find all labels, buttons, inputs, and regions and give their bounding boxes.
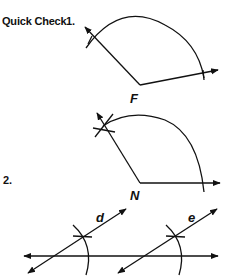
- vertex-label-f: F: [130, 91, 139, 106]
- line-label-d: d: [96, 210, 105, 225]
- angle-n-figure: [93, 113, 220, 192]
- vertex-label-n: N: [130, 188, 140, 203]
- construction-diagram: F N d e: [0, 0, 244, 277]
- angle-f-figure: [85, 16, 218, 85]
- line-label-e: e: [188, 210, 195, 225]
